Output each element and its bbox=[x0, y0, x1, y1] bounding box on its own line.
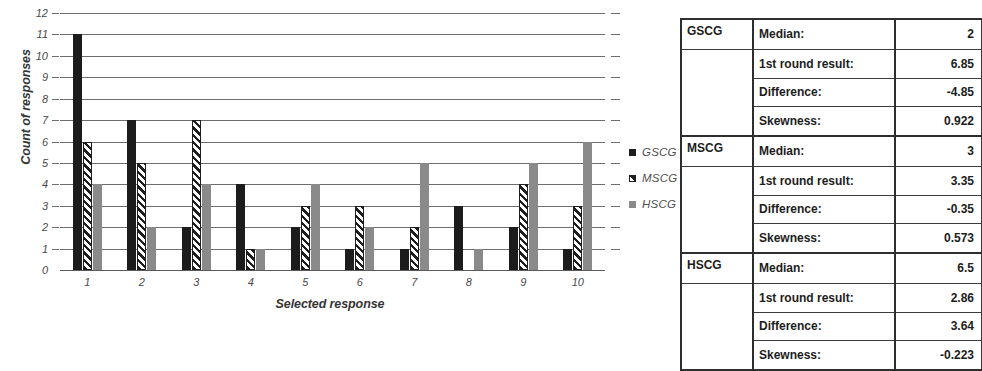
y-tick-mark bbox=[52, 227, 59, 228]
group-spacer bbox=[681, 283, 753, 312]
group-spacer bbox=[681, 312, 753, 341]
stat-value: -4.85 bbox=[895, 78, 982, 107]
right-tick-mark bbox=[611, 206, 620, 207]
x-axis-title: Selected response bbox=[55, 297, 605, 311]
chart-legend: GSCGMSCGHSCG bbox=[629, 139, 687, 217]
table-row: 1st round result:2.86 bbox=[681, 283, 982, 312]
stat-label: 1st round result: bbox=[753, 283, 895, 312]
hatched-square-icon bbox=[629, 175, 636, 182]
table-row: Difference:3.64 bbox=[681, 312, 982, 341]
right-tick-mark bbox=[611, 184, 620, 185]
table-row: 1st round result:6.85 bbox=[681, 49, 982, 78]
stat-label: 1st round result: bbox=[753, 166, 895, 195]
gray-square-icon bbox=[629, 201, 636, 208]
right-tick-mark bbox=[611, 227, 620, 228]
group-name-hscg: HSCG bbox=[681, 253, 753, 283]
group-spacer bbox=[681, 107, 753, 137]
stat-label: Difference: bbox=[753, 195, 895, 224]
stat-label: Skewness: bbox=[753, 341, 895, 371]
stat-value: 2 bbox=[895, 19, 982, 49]
statistics-table: GSCGMedian:21st round result:6.85Differe… bbox=[680, 18, 982, 371]
stat-label: Difference: bbox=[753, 78, 895, 107]
stat-label: Median: bbox=[753, 19, 895, 49]
stat-label: Median: bbox=[753, 136, 895, 166]
bar-chart: Count of responses 0123456789101112 1234… bbox=[0, 0, 680, 321]
right-tick-mark bbox=[611, 249, 620, 250]
y-tick-label: 9 bbox=[14, 71, 48, 83]
x-tick-label: 3 bbox=[176, 276, 216, 288]
black-square-icon bbox=[629, 149, 636, 156]
x-axis-tick-labels: 12345678910 bbox=[60, 0, 605, 321]
group-spacer bbox=[681, 341, 753, 371]
right-tick-mark bbox=[611, 142, 620, 143]
x-tick-label: 2 bbox=[122, 276, 162, 288]
group-spacer bbox=[681, 224, 753, 254]
stat-value: 3 bbox=[895, 136, 982, 166]
stat-value: 3.35 bbox=[895, 166, 982, 195]
y-tick-label: 8 bbox=[14, 93, 48, 105]
stat-value: 0.922 bbox=[895, 107, 982, 137]
y-tick-label: 5 bbox=[14, 157, 48, 169]
legend-item-mscg[interactable]: MSCG bbox=[629, 165, 687, 191]
table-row: Difference:-4.85 bbox=[681, 78, 982, 107]
y-tick-mark bbox=[52, 163, 59, 164]
group-name-mscg: MSCG bbox=[681, 136, 753, 166]
table-row: HSCGMedian:6.5 bbox=[681, 253, 982, 283]
y-tick-mark bbox=[52, 34, 59, 35]
right-tick-mark bbox=[611, 163, 620, 164]
y-tick-label: 12 bbox=[14, 7, 48, 19]
stat-label: Skewness: bbox=[753, 224, 895, 254]
y-tick-label: 6 bbox=[14, 136, 48, 148]
group-spacer bbox=[681, 49, 753, 78]
stat-value: 6.5 bbox=[895, 253, 982, 283]
legend-item-hscg[interactable]: HSCG bbox=[629, 191, 687, 217]
right-tick-mark bbox=[611, 13, 620, 14]
group-spacer bbox=[681, 78, 753, 107]
table-row: MSCGMedian:3 bbox=[681, 136, 982, 166]
right-tick-mark bbox=[611, 77, 620, 78]
x-tick-label: 5 bbox=[285, 276, 325, 288]
stat-label: Skewness: bbox=[753, 107, 895, 137]
x-tick-label: 4 bbox=[231, 276, 271, 288]
y-tick-mark bbox=[52, 206, 59, 207]
table-row: 1st round result:3.35 bbox=[681, 166, 982, 195]
stat-value: 0.573 bbox=[895, 224, 982, 254]
stat-value: -0.35 bbox=[895, 195, 982, 224]
stat-value: 6.85 bbox=[895, 49, 982, 78]
x-tick-label: 6 bbox=[340, 276, 380, 288]
table-row: Skewness:-0.223 bbox=[681, 341, 982, 371]
legend-label: GSCG bbox=[642, 146, 677, 158]
right-axis-tick-marks bbox=[605, 13, 606, 270]
stat-label: Median: bbox=[753, 253, 895, 283]
y-tick-mark bbox=[52, 99, 59, 100]
legend-label: MSCG bbox=[642, 172, 677, 184]
y-tick-label: 3 bbox=[14, 200, 48, 212]
stat-label: Difference: bbox=[753, 312, 895, 341]
stat-value: 3.64 bbox=[895, 312, 982, 341]
group-name-gscg: GSCG bbox=[681, 19, 753, 49]
right-tick-mark bbox=[611, 56, 620, 57]
right-tick-mark bbox=[611, 99, 620, 100]
y-tick-label: 1 bbox=[14, 243, 48, 255]
x-tick-label: 7 bbox=[394, 276, 434, 288]
group-spacer bbox=[681, 195, 753, 224]
legend-label: HSCG bbox=[642, 198, 676, 210]
stat-value: 2.86 bbox=[895, 283, 982, 312]
stat-value: -0.223 bbox=[895, 341, 982, 371]
y-tick-mark bbox=[52, 249, 59, 250]
stat-label: 1st round result: bbox=[753, 49, 895, 78]
y-tick-mark bbox=[52, 184, 59, 185]
y-tick-mark bbox=[52, 56, 59, 57]
table-row: Skewness:0.922 bbox=[681, 107, 982, 137]
right-tick-mark bbox=[611, 120, 620, 121]
table-row: GSCGMedian:2 bbox=[681, 19, 982, 49]
y-tick-label: 10 bbox=[14, 50, 48, 62]
group-spacer bbox=[681, 166, 753, 195]
y-tick-label: 7 bbox=[14, 114, 48, 126]
y-tick-label: 11 bbox=[14, 28, 48, 40]
y-tick-label: 0 bbox=[14, 264, 48, 276]
legend-item-gscg[interactable]: GSCG bbox=[629, 139, 687, 165]
x-tick-label: 8 bbox=[449, 276, 489, 288]
y-tick-mark bbox=[52, 120, 59, 121]
